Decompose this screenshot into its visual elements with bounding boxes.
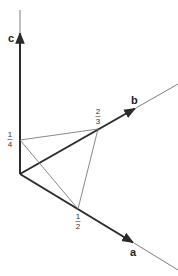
b-intercept-numerator: 2 [96,107,101,116]
c-axis-label: c [8,32,14,44]
c-intercept-denominator: 4 [8,140,13,149]
plane-edge-ba [78,129,98,209]
plane-edge-ca [20,140,78,209]
a-intercept-fraction: 1 2 [76,212,81,231]
b-axis-label: b [131,94,138,106]
a-axis [20,174,178,270]
a-intercept-denominator: 2 [76,222,81,231]
axes-diagram: c b a 1 4 2 3 1 2 [0,0,178,276]
b-axis-vector [20,109,135,175]
plane-edge-cb [20,129,98,140]
b-intercept-fraction: 2 3 [96,107,101,126]
b-axis [20,84,178,174]
a-intercept-numerator: 1 [76,212,81,221]
c-intercept-numerator: 1 [8,130,13,139]
a-axis-extension [134,243,178,270]
b-intercept-denominator: 3 [96,117,101,126]
a-axis-label: a [130,246,137,258]
a-axis-vector [20,174,133,243]
c-intercept-fraction: 1 4 [8,130,13,149]
b-axis-extension [136,84,178,108]
